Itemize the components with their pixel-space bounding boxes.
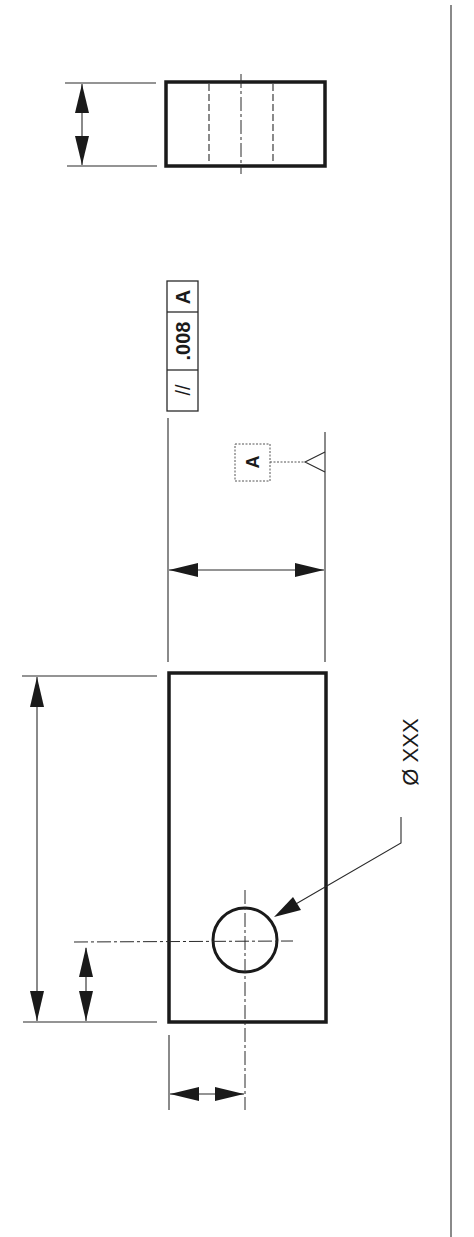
datum-label: A xyxy=(243,456,263,469)
fcf-parallelism-symbol: // xyxy=(172,384,194,396)
fcf-tolerance-text: .008 xyxy=(172,322,194,361)
arrowhead-icon xyxy=(30,991,44,1021)
arrowhead-icon xyxy=(169,563,198,577)
front-view xyxy=(74,673,326,1110)
hole-callout: Ø XXX xyxy=(274,718,423,917)
datum-triangle-icon xyxy=(305,452,325,472)
width-dimension xyxy=(168,418,325,662)
front-view-outline xyxy=(169,673,326,1022)
arrowhead-icon xyxy=(170,1087,199,1101)
datum-feature: A xyxy=(235,444,325,481)
arrowhead-icon xyxy=(295,563,324,577)
arrowhead-icon xyxy=(79,947,93,977)
leader-line xyxy=(282,817,401,912)
arrowhead-icon xyxy=(30,677,44,707)
hole-location-dimension xyxy=(79,947,93,1021)
drawing-canvas: A .008 // A xyxy=(0,0,474,1237)
feature-control-frame: A .008 // xyxy=(167,281,198,411)
arrowhead-icon xyxy=(75,84,89,113)
side-view xyxy=(65,74,325,174)
arrowhead-icon xyxy=(79,991,93,1021)
side-view-outline xyxy=(166,82,325,166)
leader-arrowhead-icon xyxy=(274,897,301,917)
arrowhead-icon xyxy=(75,136,89,165)
fcf-datum-text: A xyxy=(172,290,194,304)
arrowhead-icon xyxy=(215,1087,244,1101)
hole-horizontal-centerline xyxy=(74,941,293,942)
hole-diameter-label: Ø XXX xyxy=(398,718,423,786)
hole-offset-dimension xyxy=(169,1035,244,1110)
